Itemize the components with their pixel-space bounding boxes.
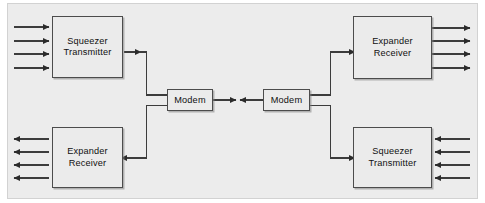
input-arrows-squeezer-transmitter-bottom-right — [435, 139, 470, 178]
block-squeezer-transmitter-top-left[interactable]: Squeezer Transmitter — [52, 16, 123, 78]
block-label-line2: Transmitter — [64, 47, 112, 58]
link-modem-left-to-expander-bl — [121, 106, 167, 159]
block-modem-left[interactable]: Modem — [167, 89, 213, 111]
block-label-line1: Expander — [67, 146, 108, 157]
output-arrows-expander-receiver-bottom-left — [14, 139, 49, 178]
block-label-line2: Receiver — [374, 48, 411, 59]
input-arrows-squeezer-transmitter-top-left — [14, 27, 49, 68]
block-modem-right[interactable]: Modem — [263, 89, 310, 111]
block-expander-receiver-bottom-left[interactable]: Expander Receiver — [52, 127, 123, 188]
link-modem-right-to-expander-tr — [310, 52, 355, 95]
block-label-line2: Receiver — [69, 158, 106, 169]
block-label-line1: Expander — [372, 36, 413, 47]
link-squeezer-br-to-modem-right — [310, 106, 355, 159]
block-label-line2: Transmitter — [369, 158, 417, 169]
block-label-line1: Squeezer — [372, 146, 413, 157]
output-arrows-expander-receiver-top-right — [432, 28, 470, 68]
diagram-canvas: Squeezer Transmitter Expander Receiver E… — [0, 0, 485, 203]
block-expander-receiver-top-right[interactable]: Expander Receiver — [353, 16, 432, 79]
block-label-line1: Modem — [271, 95, 302, 106]
block-label-line1: Modem — [174, 95, 205, 106]
block-squeezer-transmitter-bottom-right[interactable]: Squeezer Transmitter — [353, 127, 432, 188]
link-squeezer-tl-to-modem-left — [124, 52, 167, 95]
block-label-line1: Squeezer — [67, 36, 108, 47]
